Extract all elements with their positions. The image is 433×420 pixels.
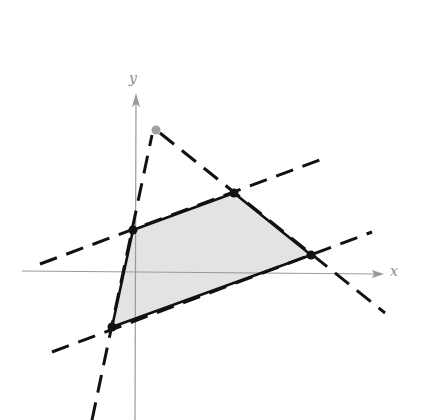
vertex-point [108, 323, 117, 332]
vertex-point [307, 251, 316, 260]
graph-svg [0, 0, 433, 420]
y-axis-label: y [129, 70, 137, 86]
x-axis-label: x [390, 263, 398, 279]
y-axis [135, 100, 136, 420]
vertex-point [230, 189, 239, 198]
feasible-region [112, 193, 311, 327]
diagram-canvas: y x [0, 0, 433, 420]
gray-intersection-point [152, 126, 161, 135]
vertex-point [129, 226, 138, 235]
